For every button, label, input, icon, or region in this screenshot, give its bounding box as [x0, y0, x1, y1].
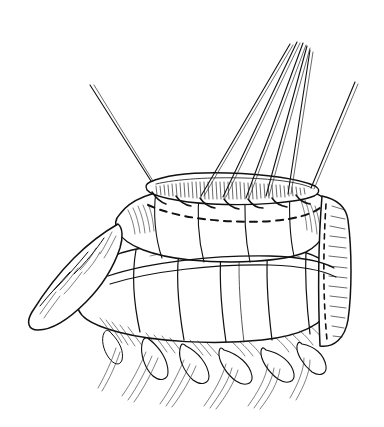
stapled-cut-end: [319, 196, 351, 346]
figure-panel: K: [0, 0, 384, 427]
surgical-illustration: [0, 0, 384, 427]
